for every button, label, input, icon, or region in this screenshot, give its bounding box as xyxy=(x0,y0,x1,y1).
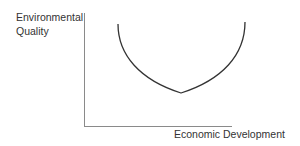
x-axis-label: Economic Development xyxy=(174,128,285,141)
u-shaped-curve xyxy=(118,22,245,93)
chart-plot xyxy=(0,0,300,146)
